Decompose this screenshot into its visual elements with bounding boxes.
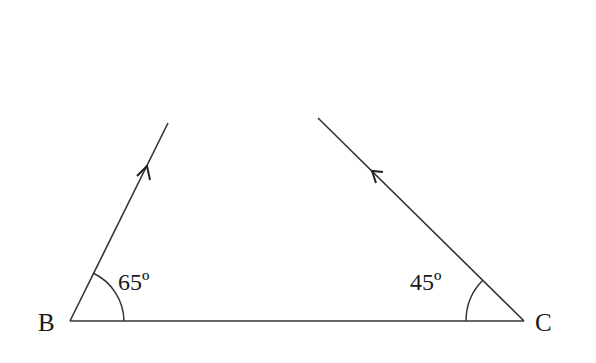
vertex-label-b: B: [38, 309, 55, 336]
angle-label-b: 65º: [118, 269, 150, 295]
angle-arc-c: [466, 280, 483, 321]
angle-label-c: 45º: [410, 269, 442, 295]
triangle-diagram: B C 65º 45º: [0, 0, 596, 363]
vertex-label-c: C: [535, 309, 552, 336]
